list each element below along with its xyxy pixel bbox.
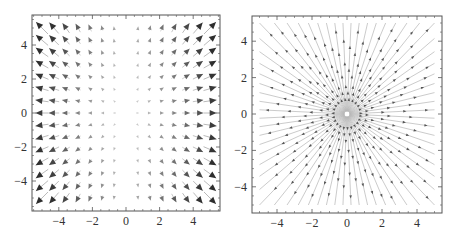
stream-arrow-icon — [291, 94, 294, 96]
stream-arrow-icon — [357, 148, 359, 151]
arrow-head-icon — [160, 123, 164, 126]
stream-arrow-icon — [301, 132, 304, 134]
arrow-head-icon — [137, 112, 139, 114]
arrow-head-icon — [113, 184, 116, 188]
stream-arrow-icon — [306, 52, 309, 55]
arrow-head-icon — [113, 39, 116, 43]
arrow-head-icon — [159, 135, 163, 139]
arrow-head-icon — [49, 134, 56, 139]
arrow-head-icon — [159, 147, 163, 151]
arrow-head-icon — [171, 147, 176, 152]
arrow-head-icon — [196, 48, 203, 55]
arrow-head-icon — [88, 100, 92, 103]
stream-arrow-icon — [409, 116, 412, 119]
arrow-head-icon — [75, 75, 80, 80]
arrow-head-icon — [210, 110, 217, 116]
stream-arrow-icon — [424, 77, 427, 79]
stream-arrow-icon — [337, 178, 340, 181]
stream-arrow-icon — [365, 143, 368, 146]
arrow-head-icon — [172, 99, 177, 103]
arrow-head-icon — [159, 159, 163, 164]
arrow-head-icon — [196, 159, 203, 165]
stream-arrow-icon — [394, 39, 397, 42]
x-tick-label: 4 — [190, 214, 196, 228]
arrow-head-icon — [49, 159, 56, 165]
arrow-head-icon — [136, 184, 139, 188]
stream-arrow-icon — [360, 78, 362, 81]
arrow-head-icon — [136, 39, 139, 43]
stream-arrow-icon — [349, 46, 352, 49]
arrow-head-icon — [49, 86, 56, 91]
arrow-head-icon — [62, 61, 68, 67]
arrow-head-icon — [184, 99, 190, 104]
stream-arrow-icon — [343, 133, 346, 136]
arrow-head-icon — [63, 196, 69, 203]
arrow-head-icon — [63, 23, 69, 30]
stream-arrow-icon — [387, 107, 390, 110]
arrow-head-icon — [75, 171, 80, 177]
x-tick-label: 0 — [123, 214, 129, 228]
arrow-head-icon — [76, 196, 81, 202]
arrow-head-icon — [101, 147, 104, 151]
arrow-head-icon — [136, 123, 139, 126]
arrow-head-icon — [101, 100, 104, 103]
stream-arrow-icon — [359, 71, 361, 74]
arrow-head-icon — [88, 147, 92, 151]
y-tick-label: −4 — [14, 174, 27, 188]
arrow-head-icon — [171, 184, 176, 190]
arrow-head-icon — [148, 63, 151, 67]
stream-arrow-icon — [340, 156, 343, 159]
stream-arrow-icon — [321, 102, 324, 104]
arrow-head-icon — [75, 147, 80, 152]
arrow-head-icon — [136, 100, 139, 103]
arrow-head-icon — [136, 26, 139, 30]
arrow-head-icon — [101, 123, 104, 126]
arrow-head-icon — [148, 112, 151, 115]
stream-arrow-icon — [400, 94, 403, 96]
stream-arrow-icon — [294, 34, 297, 37]
stream-arrow-icon — [403, 121, 406, 124]
arrow-head-icon — [184, 74, 190, 79]
arrow-head-icon — [36, 172, 44, 179]
stream-arrow-icon — [351, 156, 354, 159]
stream-arrow-icon — [381, 58, 384, 61]
arrow-head-icon — [148, 38, 152, 43]
stream-arrow-icon — [364, 169, 366, 172]
arrow-head-icon — [88, 88, 92, 92]
arrow-head-icon — [171, 49, 176, 55]
arrow-head-icon — [197, 98, 203, 103]
arrow-head-icon — [171, 75, 176, 80]
stream-arrow-icon — [338, 86, 340, 89]
stream-arrow-icon — [380, 194, 382, 197]
arrow-head-icon — [171, 171, 176, 177]
arrow-head-icon — [101, 112, 104, 115]
arrow-head-icon — [62, 111, 67, 116]
arrow-head-icon — [171, 24, 176, 30]
arrow-head-icon — [62, 74, 68, 79]
arrow-head-icon — [75, 99, 80, 103]
stream-arrow-icon — [343, 39, 346, 42]
arrow-head-icon — [88, 62, 92, 67]
arrow-head-icon — [197, 110, 203, 115]
arrow-head-icon — [136, 88, 138, 91]
arrow-head-icon — [62, 159, 68, 165]
arrow-head-icon — [113, 51, 116, 54]
arrow-head-icon — [209, 98, 216, 104]
stream-arrow-icon — [378, 127, 381, 129]
y-tick-label: −2 — [234, 143, 247, 157]
stream-arrow-icon — [285, 133, 288, 135]
arrow-head-icon — [209, 86, 217, 92]
stream-arrow-icon — [294, 191, 297, 194]
arrow-head-icon — [148, 184, 152, 189]
y-tick-label: 2 — [21, 72, 27, 86]
arrow-head-icon — [136, 196, 139, 200]
stream-arrow-icon — [345, 85, 348, 88]
arrow-head-icon — [148, 75, 151, 79]
arrow-head-icon — [62, 123, 68, 128]
stream-arrow-icon — [418, 146, 421, 148]
left-plot-axes: −4−2024−4−2024 — [14, 15, 220, 228]
arrow-head-icon — [101, 184, 105, 189]
arrow-head-icon — [184, 159, 190, 165]
arrow-head-icon — [183, 183, 189, 190]
stream-arrow-icon — [281, 116, 284, 119]
